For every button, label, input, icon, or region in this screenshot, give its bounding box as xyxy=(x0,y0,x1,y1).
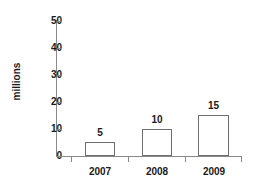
x-tick-mark xyxy=(185,157,186,162)
y-tick-mark xyxy=(57,129,62,130)
bar-value-2009: 15 xyxy=(198,101,229,111)
y-tick-mark xyxy=(57,75,62,76)
x-category-label-2008: 2008 xyxy=(139,166,175,177)
bar-2008 xyxy=(142,129,172,156)
x-tick-mark xyxy=(71,157,72,162)
bar-2007 xyxy=(85,142,115,156)
y-tick-mark xyxy=(57,48,62,49)
bar-chart-figure: millions 0 10 20 30 40 50 5 10 15 2007 2… xyxy=(0,0,259,187)
x-category-label-2007: 2007 xyxy=(82,166,118,177)
y-axis-title: millions xyxy=(11,52,22,112)
x-tick-mark xyxy=(128,157,129,162)
bar-value-2007: 5 xyxy=(85,128,115,138)
y-axis-line xyxy=(56,20,57,157)
x-tick-mark xyxy=(241,157,242,162)
x-axis-line xyxy=(56,156,242,157)
y-tick-mark xyxy=(57,102,62,103)
y-tick-mark xyxy=(57,156,62,157)
y-tick-mark xyxy=(57,21,62,22)
bar-value-2008: 10 xyxy=(142,115,172,125)
x-category-label-2009: 2009 xyxy=(196,166,232,177)
bar-2009 xyxy=(198,115,229,156)
